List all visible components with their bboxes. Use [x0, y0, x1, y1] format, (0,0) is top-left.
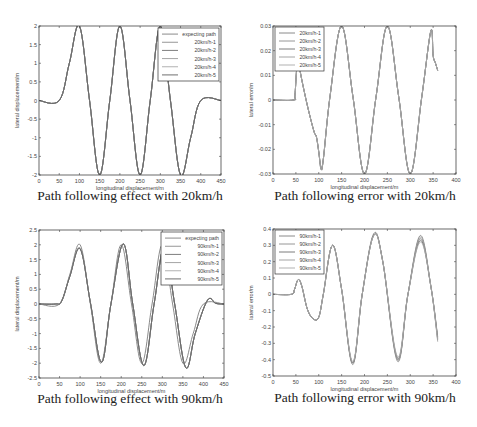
- x-tick-label: 100: [76, 381, 85, 387]
- x-tick-label: 300: [406, 379, 415, 385]
- legend-entry: 90km/h-4: [197, 268, 219, 274]
- caption-br: Path following error with 90km/h: [245, 390, 477, 406]
- legend: expecting path20km/h-120km/h-220km/h-320…: [158, 28, 219, 81]
- legend-entry: 20km/h-5: [194, 72, 216, 78]
- y-tick-label: -2.5: [28, 375, 37, 381]
- legend-entry: 90km/h-1: [299, 233, 321, 239]
- legend-entry: 90km/h-1: [197, 243, 219, 249]
- y-tick-label: -0.01: [258, 122, 271, 128]
- y-tick-label: 0.1: [263, 275, 271, 281]
- y-tick-label: 0.3: [263, 242, 271, 248]
- x-tick-label: 100: [314, 379, 323, 385]
- x-tick-label: 200: [360, 177, 369, 183]
- legend-entry: 90km/h-5: [299, 265, 321, 271]
- y-tick-label: 0: [268, 97, 271, 103]
- y-tick-label: 1: [34, 60, 37, 66]
- legend-entry: 20km/h-2: [194, 47, 216, 53]
- chart-br: 050100150200250300350400-0.5-0.4-0.3-0.2…: [248, 226, 461, 392]
- y-tick-label: -1.5: [28, 345, 37, 351]
- figure: 050100150200250300350400450-2-1.5-1-0.50…: [0, 0, 477, 427]
- x-tick-label: 300: [156, 178, 165, 184]
- legend: 90km/h-190km/h-290km/h-390km/h-490km/h-5: [275, 230, 324, 274]
- x-tick-label: 100: [314, 177, 323, 183]
- y-tick-label: 1: [34, 271, 37, 277]
- x-tick-label: 400: [451, 177, 460, 183]
- y-tick-label: 0: [268, 291, 271, 297]
- caption-tr: Path following error with 20km/h: [245, 188, 477, 204]
- legend-entry: 90km/h-2: [299, 241, 321, 247]
- x-tick-label: 150: [337, 379, 346, 385]
- y-tick-label: -0.5: [28, 316, 37, 322]
- chart-tl: 050100150200250300350400450-2-1.5-1-0.50…: [14, 23, 226, 191]
- y-tick-label: 0: [34, 301, 37, 307]
- x-tick-label: 350: [429, 177, 438, 183]
- x-tick-label: 250: [137, 381, 146, 387]
- y-tick-label: 0.2: [263, 259, 271, 265]
- chart-bl: 050100150200250300350400450-2.5-2-1.5-1-…: [14, 227, 229, 394]
- legend: 20km/h-120km/h-220km/h-320km/h-420km/h-5: [275, 27, 324, 71]
- legend-entry: 90km/h-4: [299, 257, 321, 263]
- x-tick-label: 250: [136, 178, 145, 184]
- x-tick-label: 400: [199, 381, 208, 387]
- legend-entry: 20km/h-2: [299, 38, 321, 44]
- x-tick-label: 350: [178, 381, 187, 387]
- y-tick-label: -1.5: [28, 153, 37, 159]
- x-tick-label: 250: [383, 379, 392, 385]
- legend-entry: 20km/h-4: [194, 64, 216, 70]
- x-tick-label: 400: [451, 379, 460, 385]
- y-tick-label: 0.5: [29, 79, 37, 85]
- y-tick-label: 2: [34, 242, 37, 248]
- y-tick-label: 0: [34, 98, 37, 104]
- y-tick-label: -2: [32, 172, 37, 178]
- x-tick-label: 200: [117, 381, 126, 387]
- x-tick-label: 200: [115, 178, 124, 184]
- legend-entry: 20km/h-1: [299, 30, 321, 36]
- y-tick-label: -0.03: [258, 171, 271, 177]
- y-tick-label: 2: [34, 23, 37, 29]
- y-tick-label: -1: [32, 135, 37, 141]
- legend-entry: 20km/h-1: [194, 39, 216, 45]
- x-tick-label: 300: [158, 381, 167, 387]
- x-tick-label: 0: [271, 379, 274, 385]
- x-tick-label: 200: [360, 379, 369, 385]
- y-tick-label: 1.5: [29, 42, 37, 48]
- y-tick-label: -0.1: [262, 308, 271, 314]
- y-axis-label: lateral displacement/m: [14, 73, 20, 128]
- legend-entry: 90km/h-5: [197, 276, 219, 282]
- legend-entry: 20km/h-4: [299, 54, 321, 60]
- legend-entry: expecting path: [182, 31, 216, 37]
- y-tick-label: -0.02: [258, 146, 271, 152]
- x-tick-label: 50: [56, 381, 62, 387]
- legend-entry: 90km/h-3: [197, 260, 219, 266]
- y-axis-label: lateral error/m: [248, 82, 254, 117]
- y-tick-label: -0.3: [262, 340, 271, 346]
- x-tick-label: 450: [216, 178, 225, 184]
- x-tick-label: 150: [96, 381, 105, 387]
- x-tick-label: 50: [56, 178, 62, 184]
- y-tick-label: -0.2: [262, 324, 271, 330]
- y-tick-label: 2.5: [29, 227, 37, 233]
- x-tick-label: 350: [176, 178, 185, 184]
- y-axis-label: lateral error/m: [248, 285, 254, 320]
- y-tick-label: 0.01: [260, 72, 271, 78]
- x-tick-label: 150: [95, 178, 104, 184]
- legend-entry: expecting path: [185, 235, 219, 241]
- legend-entry: 90km/h-3: [299, 249, 321, 255]
- x-tick-label: 150: [337, 177, 346, 183]
- x-tick-label: 300: [406, 177, 415, 183]
- x-tick-label: 350: [429, 379, 438, 385]
- y-tick-label: -0.5: [262, 373, 271, 379]
- x-tick-label: 0: [37, 381, 40, 387]
- x-tick-label: 50: [293, 379, 299, 385]
- x-tick-label: 250: [383, 177, 392, 183]
- x-tick-label: 0: [37, 178, 40, 184]
- y-tick-label: 1.5: [29, 257, 37, 263]
- caption-bl: Path following effect with 90km/h: [10, 391, 250, 407]
- legend: expecting path90km/h-190km/h-290km/h-390…: [161, 232, 222, 285]
- x-tick-label: 100: [75, 178, 84, 184]
- x-tick-label: 450: [219, 381, 228, 387]
- y-axis-label: lateral displacement/m: [14, 276, 20, 331]
- chart-tr: 050100150200250300350400-0.03-0.02-0.010…: [248, 23, 461, 190]
- legend-entry: 20km/h-3: [299, 46, 321, 52]
- legend-entry: 20km/h-5: [299, 62, 321, 68]
